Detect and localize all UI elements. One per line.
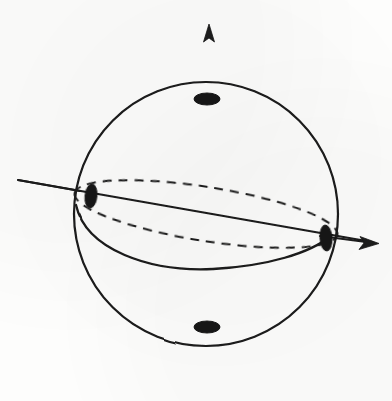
left-equator-point (84, 183, 98, 208)
north-pole-point (194, 93, 220, 105)
equator-front-arc-solid (76, 205, 331, 269)
horizontal-axis-arrowhead-icon (359, 237, 379, 250)
equator-front-arc-dashed-upper (70, 193, 337, 261)
sphere-diagram-canvas (0, 0, 392, 401)
horizontal-axis-tail-overlay (18, 180, 80, 191)
right-equator-point (319, 225, 333, 252)
south-pole-point (194, 321, 220, 333)
sphere-outline (74, 82, 338, 346)
figure-root (0, 0, 392, 401)
